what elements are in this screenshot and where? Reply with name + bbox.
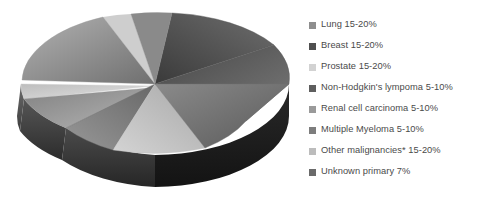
square-swatch-icon <box>309 169 316 176</box>
legend-item-label: Other malignancies* 15-20% <box>321 145 441 156</box>
square-swatch-icon <box>309 127 316 134</box>
square-swatch-icon <box>309 106 316 113</box>
legend-item-other-malignancies[interactable]: Other malignancies* 15-20% <box>309 140 485 161</box>
legend-item-label: Renal cell carcinoma 5-10% <box>321 103 438 114</box>
legend-item-lung[interactable]: Lung 15-20% <box>309 14 485 35</box>
square-swatch-icon <box>309 148 316 155</box>
legend-item-myeloma[interactable]: Multiple Myeloma 5-10% <box>309 119 485 140</box>
legend-item-label: Non-Hodgkin's lympoma 5-10% <box>321 82 453 93</box>
legend-item-unknown-primary[interactable]: Unknown primary 7% <box>309 161 485 182</box>
legend-item-renal[interactable]: Renal cell carcinoma 5-10% <box>309 98 485 119</box>
pie-chart-graphic <box>0 0 300 204</box>
legend-item-prostate[interactable]: Prostate 15-20% <box>309 56 485 77</box>
legend-item-breast[interactable]: Breast 15-20% <box>309 35 485 56</box>
legend-item-label: Multiple Myeloma 5-10% <box>321 124 424 135</box>
square-swatch-icon <box>309 43 316 50</box>
chart-legend: Lung 15-20% Breast 15-20% Prostate 15-20… <box>309 14 485 182</box>
pie-chart-figure: Lung 15-20% Breast 15-20% Prostate 15-20… <box>0 0 486 204</box>
square-swatch-icon <box>309 22 316 29</box>
legend-item-label: Lung 15-20% <box>321 19 377 30</box>
square-swatch-icon <box>309 85 316 92</box>
pie-chart-svg <box>0 0 300 204</box>
legend-item-label: Prostate 15-20% <box>321 61 391 72</box>
legend-item-non-hodgkin[interactable]: Non-Hodgkin's lympoma 5-10% <box>309 77 485 98</box>
square-swatch-icon <box>309 64 316 71</box>
legend-item-label: Unknown primary 7% <box>321 166 410 177</box>
legend-item-label: Breast 15-20% <box>321 40 383 51</box>
